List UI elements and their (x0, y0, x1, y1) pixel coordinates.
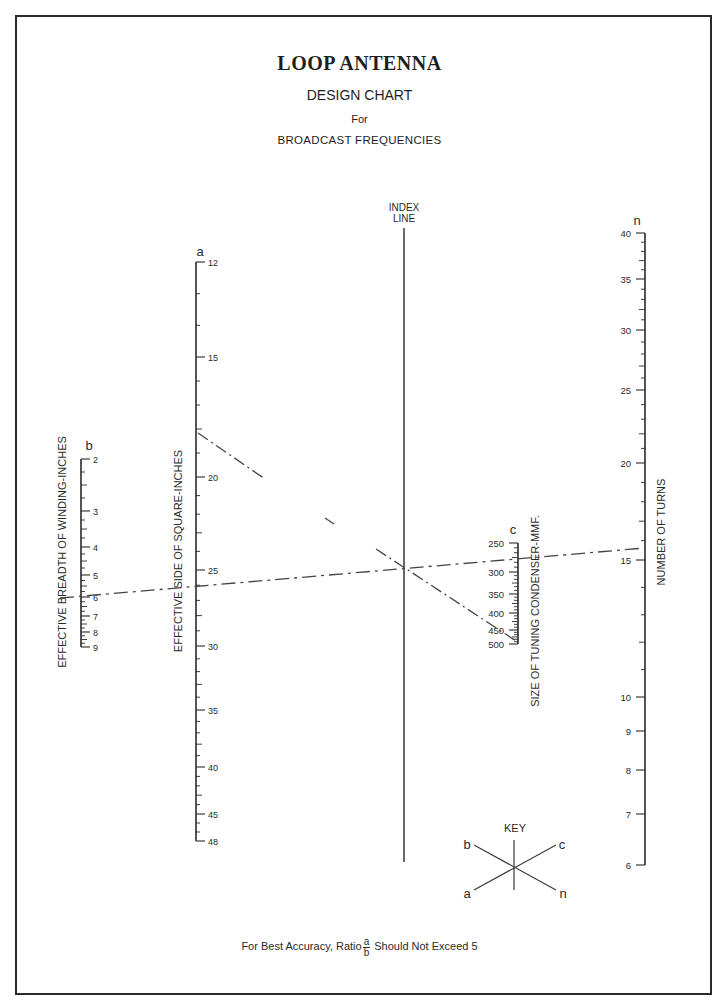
tick-label-b: 2 (93, 455, 98, 465)
axis-title-n: NUMBER OF TURNS (655, 479, 667, 586)
tick-label-c: 350 (488, 589, 504, 600)
index-line-label: LINE (393, 213, 416, 224)
accuracy-footnote: For Best Accuracy, Ratioab Should Not Ex… (0, 937, 719, 958)
tick-label-n: 30 (620, 325, 631, 336)
tick-label-n: 15 (620, 555, 631, 566)
tick-label-b: 4 (93, 543, 98, 553)
tick-label-b: 3 (93, 507, 98, 517)
tick-label-c: 250 (488, 538, 504, 549)
tick-label-n: 25 (620, 385, 631, 396)
tick-label-b: 5 (93, 571, 98, 581)
tick-label-n: 8 (626, 765, 631, 776)
tick-label-a: 40 (208, 763, 218, 773)
footnote-suffix: Should Not Exceed 5 (374, 940, 477, 952)
axis-n: 403530252015109876nNUMBER OF TURNS (620, 213, 667, 871)
tick-label-n: 35 (620, 274, 631, 285)
tick-label-a: 35 (208, 706, 218, 716)
tick-label-c: 400 (488, 608, 504, 619)
tick-label-n: 10 (620, 692, 631, 703)
tick-label-n: 6 (626, 860, 631, 871)
axis-c: 250300350400450500cSIZE OF TUNING CONDEN… (488, 515, 541, 707)
tick-label-n: 20 (620, 458, 631, 469)
tick-label-a: 45 (208, 810, 218, 820)
key-label-b: b (463, 837, 470, 852)
index-line-label: INDEX (389, 202, 420, 213)
example-lines (60, 433, 645, 641)
tick-label-n: 7 (626, 809, 631, 820)
footnote-prefix: For Best Accuracy, Ratio (241, 940, 361, 952)
key-label-c: c (559, 837, 566, 852)
index-line: INDEXLINE (389, 202, 420, 862)
tick-label-b: 9 (93, 643, 98, 653)
tick-label-a: 15 (208, 353, 218, 363)
tick-label-a: 25 (208, 566, 218, 576)
nomogram-plot: 23456789bEFFECTIVE BREADTH OF WINDING-IN… (0, 0, 719, 1000)
ratio-fraction: ab (363, 937, 371, 958)
tick-label-a: 12 (208, 258, 218, 268)
tick-label-a: 20 (208, 473, 218, 483)
key-title: KEY (504, 822, 527, 834)
key-label-n: n (559, 886, 566, 901)
tick-label-b: 7 (93, 612, 98, 622)
example-line-a-c-segment (325, 518, 334, 524)
axis-title-b: EFFECTIVE BREADTH OF WINDING-INCHES (56, 436, 68, 668)
axis-letter-c: c (510, 522, 517, 537)
tick-label-a: 30 (208, 642, 218, 652)
axis-title-c: SIZE OF TUNING CONDENSER-MMF. (529, 515, 541, 707)
axis-title-a: EFFECTIVE SIDE OF SQUARE-INCHES (172, 450, 184, 652)
axis-letter-a: a (196, 244, 204, 259)
tick-label-a: 48 (208, 837, 218, 847)
tick-label-b: 6 (93, 593, 98, 603)
axis-letter-b: b (85, 438, 92, 453)
key-diagram: KEY b c a n (463, 822, 566, 901)
example-line-b-n (60, 548, 645, 598)
axis-b: 23456789bEFFECTIVE BREADTH OF WINDING-IN… (56, 436, 98, 668)
tick-label-n: 40 (620, 228, 631, 239)
tick-label-b: 8 (93, 628, 98, 638)
axes-layer: 23456789bEFFECTIVE BREADTH OF WINDING-IN… (56, 202, 667, 871)
tick-label-c: 450 (488, 625, 504, 636)
key-label-a: a (463, 886, 471, 901)
tick-label-c: 300 (488, 567, 504, 578)
tick-label-n: 9 (626, 726, 631, 737)
tick-label-c: 500 (488, 639, 504, 650)
axis-a: 121520253035404548aEFFECTIVE SIDE OF SQU… (172, 244, 218, 847)
axis-letter-n: n (633, 213, 640, 228)
